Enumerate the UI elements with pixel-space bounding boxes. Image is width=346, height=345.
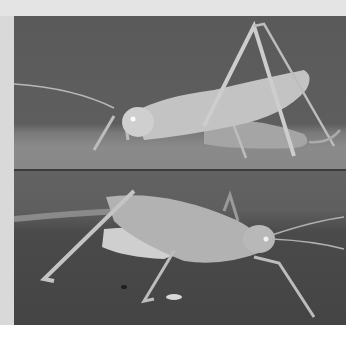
photo-top-katydid <box>14 16 346 170</box>
photo-bottom-katydid <box>14 171 346 325</box>
katydid-illustration-bottom <box>14 171 346 325</box>
katydid-illustration-top <box>14 16 346 170</box>
left-margin-strip <box>0 16 14 325</box>
top-margin <box>0 0 346 16</box>
